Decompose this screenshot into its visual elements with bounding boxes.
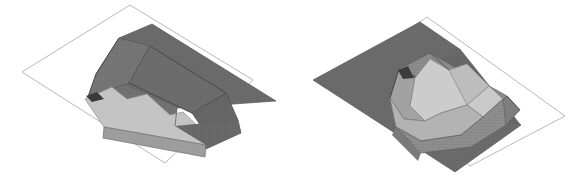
- punch-render: (a): [0, 0, 291, 180]
- figure-panel-right: (b): [291, 0, 582, 180]
- figure-panel-left: (a): [0, 0, 291, 180]
- figure-root: (a): [0, 0, 582, 180]
- die-cavity-render: (b): [291, 0, 582, 180]
